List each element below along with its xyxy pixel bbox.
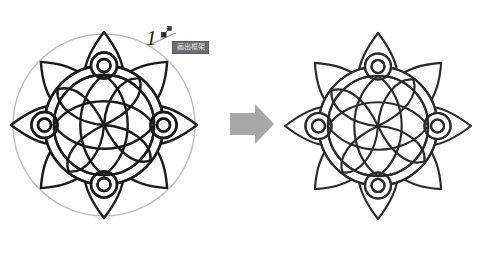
figure-before <box>11 32 197 218</box>
move-handle-icon[interactable] <box>161 26 173 38</box>
mandala-before <box>11 32 197 218</box>
figure-after <box>285 33 471 219</box>
tooltip: 画出框架 <box>172 41 209 54</box>
right-arrow-icon <box>230 104 274 144</box>
mandala-after <box>285 33 471 219</box>
illustration-stage: 1 画出框架 <box>0 0 496 253</box>
tooltip-label: 画出框架 <box>177 43 205 52</box>
illustration-canvas <box>0 0 496 253</box>
step-number-label: 1 <box>146 28 157 49</box>
